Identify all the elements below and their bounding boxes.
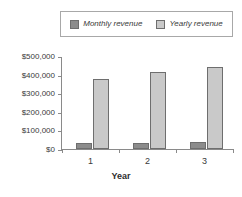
y-tick-mark xyxy=(58,94,62,95)
y-tick-mark xyxy=(58,113,62,114)
bar-yearly-1[interactable] xyxy=(93,79,109,149)
y-tick-mark xyxy=(58,57,62,58)
x-tick-label-2: 2 xyxy=(145,157,150,166)
legend-swatch-yearly-icon xyxy=(156,20,165,29)
x-tick-label-3: 3 xyxy=(202,157,207,166)
x-tick-mark xyxy=(176,149,177,153)
bar-yearly-3[interactable] xyxy=(207,67,223,149)
x-tick-label-1: 1 xyxy=(88,157,93,166)
y-tick-label: $200,000 xyxy=(22,109,55,117)
legend-swatch-monthly-icon xyxy=(70,20,79,29)
plot-area: $500,000 $400,000 $300,000 $200,000 $100… xyxy=(61,57,233,150)
x-tick-mark xyxy=(119,149,120,153)
y-tick-label: $100,000 xyxy=(22,127,55,135)
x-axis-title: Year xyxy=(0,172,242,181)
bar-monthly-2[interactable] xyxy=(133,143,149,149)
legend-label-yearly: Yearly revenue xyxy=(169,20,222,28)
x-tick-mark xyxy=(62,149,63,153)
bar-monthly-1[interactable] xyxy=(76,143,92,149)
bar-group-1 xyxy=(76,57,109,149)
y-tick-label: $500,000 xyxy=(22,53,55,61)
chart-legend: Monthly revenue Yearly revenue xyxy=(60,11,233,37)
y-tick-mark xyxy=(58,131,62,132)
y-tick-label: $400,000 xyxy=(22,72,55,80)
y-tick-mark xyxy=(58,76,62,77)
legend-item-monthly-revenue[interactable]: Monthly revenue xyxy=(70,20,142,29)
x-tick-mark xyxy=(233,149,234,153)
bar-chart: Monthly revenue Yearly revenue $500,000 … xyxy=(0,0,242,197)
bar-group-3 xyxy=(190,57,223,149)
legend-label-monthly: Monthly revenue xyxy=(83,20,142,28)
y-tick-label: $300,000 xyxy=(22,90,55,98)
y-tick-label: $0 xyxy=(46,146,55,154)
legend-item-yearly-revenue[interactable]: Yearly revenue xyxy=(156,20,222,29)
bar-yearly-2[interactable] xyxy=(150,72,166,149)
bar-monthly-3[interactable] xyxy=(190,142,206,149)
bar-group-2 xyxy=(133,57,166,149)
